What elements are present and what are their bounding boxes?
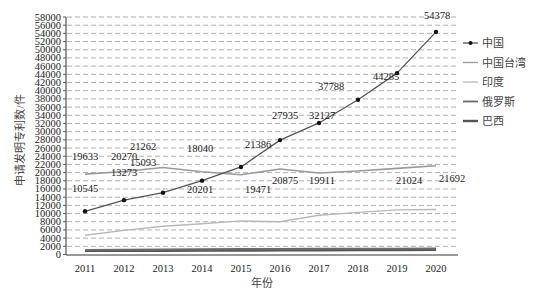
gridlines (67, 17, 458, 246)
legend-label: 巴西 (482, 115, 504, 127)
data-point-marker (200, 178, 204, 182)
x-tick-label: 2011 (75, 263, 96, 274)
y-tick-label: 58000 (35, 12, 61, 23)
legend-marker-icon (469, 41, 473, 45)
patent-line-chart: 0200040006000800010000120001400016000180… (0, 0, 538, 300)
data-label-taiwan: 19633 (72, 151, 98, 162)
data-label-taiwan: 20201 (187, 184, 213, 195)
x-tick-label: 2014 (192, 263, 214, 274)
legend-item: 中国 (463, 37, 504, 49)
data-label-china: 21386 (245, 139, 271, 150)
legend-label: 俄罗斯 (482, 96, 515, 108)
axes (66, 17, 458, 255)
y-axis-ticks: 0200040006000800010000120001400016000180… (35, 12, 66, 261)
legend-label: 中国台湾 (482, 56, 526, 69)
x-tick-label: 2020 (426, 263, 447, 274)
data-label-taiwan: 20270 (111, 151, 137, 162)
data-label-china: 44285 (373, 71, 399, 82)
data-label-china: 54378 (424, 10, 450, 21)
data-point-marker (278, 138, 282, 142)
data-label-china: 32127 (309, 110, 335, 121)
data-point-marker (356, 98, 360, 102)
legend-item: 印度 (463, 75, 504, 88)
x-tick-label: 2019 (387, 263, 408, 274)
data-label-china: 18040 (187, 143, 213, 154)
data-label-china: 13273 (111, 167, 137, 178)
data-point-marker (161, 190, 165, 194)
x-tick-label: 2018 (348, 263, 369, 274)
legend-item: 巴西 (463, 115, 504, 127)
data-point-marker (239, 165, 243, 169)
x-tick-label: 2017 (309, 263, 330, 274)
x-tick-label: 2016 (270, 263, 291, 274)
data-point-marker (434, 30, 438, 34)
legend-label: 印度 (482, 75, 504, 88)
data-label-china: 10545 (72, 183, 98, 194)
x-tick-label: 2012 (114, 263, 135, 274)
data-label-china: 37788 (318, 81, 344, 92)
x-axis-title: 年份 (251, 276, 273, 289)
data-point-marker (122, 198, 126, 202)
data-label-china: 27935 (272, 110, 298, 121)
legend: 中国中国台湾印度俄罗斯巴西 (463, 37, 526, 127)
data-point-marker (83, 209, 87, 213)
legend-item: 中国台湾 (463, 56, 526, 69)
legend-item: 俄罗斯 (463, 96, 515, 108)
x-tick-label: 2015 (231, 263, 252, 274)
y-axis-title: 申请发明专利数/件 (13, 94, 26, 185)
series-line (85, 249, 436, 250)
data-label-taiwan: 21692 (439, 173, 465, 184)
data-label-taiwan: 21024 (396, 175, 423, 186)
data-label-taiwan: 20875 (272, 175, 298, 186)
data-label-taiwan: 19471 (245, 184, 271, 195)
x-axis-ticks: 2011201220132014201520162017201820192020 (75, 263, 447, 274)
legend-label: 中国 (482, 37, 504, 49)
x-tick-label: 2013 (153, 263, 174, 274)
data-label-taiwan: 21262 (130, 141, 156, 152)
data-label-taiwan: 19911 (309, 175, 335, 186)
data-point-marker (317, 121, 321, 125)
